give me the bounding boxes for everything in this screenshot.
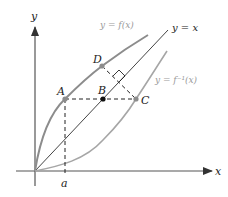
f-inverse-curve-label: y = f⁻¹(x): [154, 75, 198, 85]
point-a-label: A: [56, 85, 65, 98]
point-b: [100, 96, 105, 101]
point-d-label: D: [92, 53, 102, 66]
identity-line-label: y = x: [171, 22, 198, 33]
right-angle-marker: [113, 70, 125, 82]
y-axis-label: y: [30, 10, 38, 23]
f-curve-label: y = f(x): [99, 20, 134, 30]
point-b-label: B: [97, 84, 106, 97]
tick-a-label: a: [61, 177, 68, 190]
inverse-function-diagram: A B C D y = f(x) y = x y = f⁻¹(x) y x a: [0, 0, 228, 197]
x-axis-label: x: [215, 165, 222, 178]
point-c: [133, 96, 138, 101]
point-c-label: C: [141, 94, 150, 107]
